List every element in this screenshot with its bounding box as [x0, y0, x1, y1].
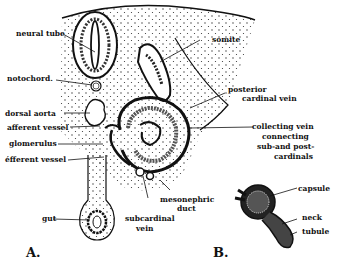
label-mesonephric-duct-2: duct — [177, 205, 196, 213]
label-neck: neck — [302, 214, 322, 222]
label-somite: somite — [212, 36, 240, 44]
label-collecting-vein-2: connecting — [262, 133, 309, 141]
panel-b-letter: B. — [213, 245, 229, 260]
label-neural-tube: neural tube — [16, 30, 65, 38]
label-glomerulus: glomerulus — [9, 140, 57, 148]
label-mesonephric-duct-1: mesonephric — [160, 196, 214, 204]
label-subcardinal-vein-1: subcardinal — [125, 215, 175, 223]
label-collecting-vein-3: sub-and post- — [257, 143, 314, 151]
label-efferent-vessel: éfferent vessel — [5, 156, 66, 164]
label-afferent-vessel: afferent vessel — [7, 124, 68, 132]
label-dorsal-aorta: dorsal aorta — [5, 110, 56, 118]
label-subcardinal-vein-2: vein — [136, 225, 153, 233]
label-posterior-cardinal-vein-2: cardinal vein — [242, 95, 297, 103]
label-posterior-cardinal-vein-1: posterior — [228, 86, 266, 94]
panel-a-letter: A. — [26, 245, 41, 260]
label-collecting-vein-1: collecting vein — [252, 123, 314, 131]
label-gut: gut — [42, 215, 56, 223]
renal-corpuscle-b — [235, 185, 293, 248]
label-tubule: tubule — [302, 228, 329, 236]
label-capsule: capsule — [298, 185, 330, 193]
label-collecting-vein-4: cardinals — [274, 153, 313, 161]
label-notochord: notochord. — [7, 75, 53, 83]
